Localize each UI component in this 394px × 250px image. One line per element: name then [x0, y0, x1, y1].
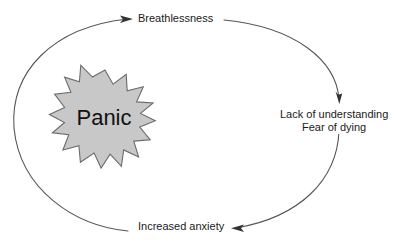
node-label-understanding-line2: Fear of dying [280, 121, 388, 134]
panic-starburst: Panic [49, 65, 155, 168]
node-label-anxiety: Increased anxiety [136, 220, 226, 233]
node-label-understanding: Lack of understanding Fear of dying [277, 108, 391, 134]
arrow-path-to-understanding [224, 20, 339, 99]
arrow-path-to-anxiety [236, 131, 339, 228]
panic-cycle-diagram: Panic Breathlessness Lack of understandi… [0, 0, 394, 250]
arrowhead-understanding-icon [336, 92, 343, 105]
node-label-understanding-line1: Lack of understanding [280, 108, 388, 121]
panic-label: Panic [76, 105, 131, 130]
arrowhead-anxiety-icon [231, 225, 244, 233]
node-label-breathlessness: Breathlessness [136, 12, 215, 25]
